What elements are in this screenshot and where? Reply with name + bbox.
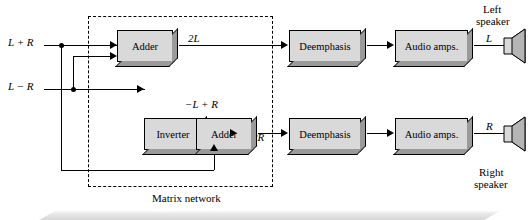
diagram-canvas: L + R L − R Adder 2L Inverter −L + R Add… bbox=[0, 0, 530, 220]
wire-amp-to-left-speaker bbox=[474, 45, 504, 46]
block-side-shade bbox=[467, 116, 473, 152]
block-inverter: Inverter bbox=[144, 118, 202, 150]
block-side-shade bbox=[172, 28, 178, 64]
arrow-into-top-adder-1 bbox=[110, 41, 117, 49]
block-bottom-shade bbox=[393, 61, 470, 67]
block-adder-top: Adder bbox=[117, 30, 173, 62]
arrow-into-audio-amps-top bbox=[387, 41, 394, 49]
right-speaker-icon bbox=[503, 116, 528, 152]
left-speaker bbox=[503, 28, 528, 68]
right-speaker-label-line1: Right bbox=[479, 166, 503, 178]
arrow-into-inverter bbox=[137, 85, 144, 93]
wire-l-plus-r-bottom-run bbox=[61, 170, 214, 171]
wire-into-top-adder-2 bbox=[73, 56, 112, 57]
wire-2l bbox=[179, 45, 286, 46]
block-bottom-shade bbox=[194, 149, 254, 155]
wire-l-plus-r-in bbox=[44, 45, 119, 46]
block-audio-amps-top: Audio amps. bbox=[395, 30, 468, 62]
block-audio-amps-bottom: Audio amps. bbox=[395, 118, 468, 150]
block-label-inverter: Inverter bbox=[156, 129, 189, 140]
left-speaker-label-line2: speaker bbox=[476, 15, 510, 27]
block-label-audio-amps-bottom: Audio amps. bbox=[405, 129, 459, 140]
right-speaker-label-line2: speaker bbox=[474, 178, 508, 190]
block-deemphasis-bottom: Deemphasis bbox=[289, 118, 361, 150]
block-label-deemphasis-bottom: Deemphasis bbox=[299, 129, 350, 140]
arrow-into-bottom-adder-side bbox=[230, 129, 237, 137]
wire-label-right-channel: R bbox=[486, 120, 493, 132]
block-bottom-shade bbox=[115, 61, 175, 67]
wire-l-plus-r-branch-down bbox=[61, 45, 62, 170]
block-bottom-shade bbox=[393, 149, 470, 155]
block-side-shade bbox=[251, 116, 257, 152]
arrow-into-top-adder-2 bbox=[110, 52, 117, 60]
block-side-shade bbox=[360, 28, 366, 64]
arrow-into-deemphasis-top bbox=[281, 41, 288, 49]
wire-amp-to-right-speaker bbox=[474, 133, 504, 134]
figure-base-shadow bbox=[39, 210, 501, 220]
wire-l-minus-r-in bbox=[44, 89, 145, 90]
block-label-adder-top: Adder bbox=[132, 41, 158, 52]
arrow-into-deemphasis-bottom bbox=[281, 129, 288, 137]
input-label-l-plus-r: L + R bbox=[8, 36, 34, 48]
block-bottom-shade bbox=[287, 149, 363, 155]
wire-label-left-channel: L bbox=[486, 32, 492, 44]
block-bottom-shade bbox=[287, 61, 363, 67]
block-label-audio-amps-top: Audio amps. bbox=[405, 41, 459, 52]
left-speaker-label-line1: Left bbox=[483, 3, 501, 15]
junction-l-minus-r bbox=[71, 87, 76, 92]
arrow-into-audio-amps-bottom bbox=[387, 129, 394, 137]
block-side-shade bbox=[467, 28, 473, 64]
input-label-l-minus-r: L − R bbox=[8, 80, 34, 92]
wire-l-minus-r-branch-up bbox=[73, 56, 74, 89]
left-speaker-icon bbox=[503, 28, 528, 64]
junction-l-plus-r bbox=[59, 43, 64, 48]
right-speaker bbox=[503, 116, 528, 156]
matrix-network-label: Matrix network bbox=[152, 192, 221, 204]
arrow-into-bottom-adder bbox=[210, 144, 218, 151]
block-side-shade bbox=[360, 116, 366, 152]
block-deemphasis-top: Deemphasis bbox=[289, 30, 361, 62]
block-adder-bottom: Adder bbox=[196, 118, 252, 150]
block-label-deemphasis-top: Deemphasis bbox=[299, 41, 350, 52]
